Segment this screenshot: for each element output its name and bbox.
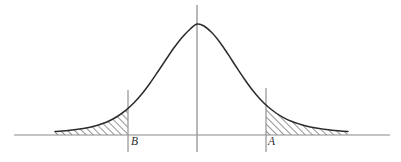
- shaded-tail-regions: [55, 24, 348, 135]
- axis-label-a: A: [267, 135, 276, 147]
- distribution-chart-canvas: B A: [0, 0, 401, 162]
- normal-distribution-curve: [55, 24, 348, 132]
- left-tail-shaded-region: [55, 24, 348, 135]
- right-tail-shaded-region: [55, 24, 348, 135]
- normal-distribution-figure: B A: [0, 0, 401, 162]
- axis-label-b: B: [131, 135, 138, 147]
